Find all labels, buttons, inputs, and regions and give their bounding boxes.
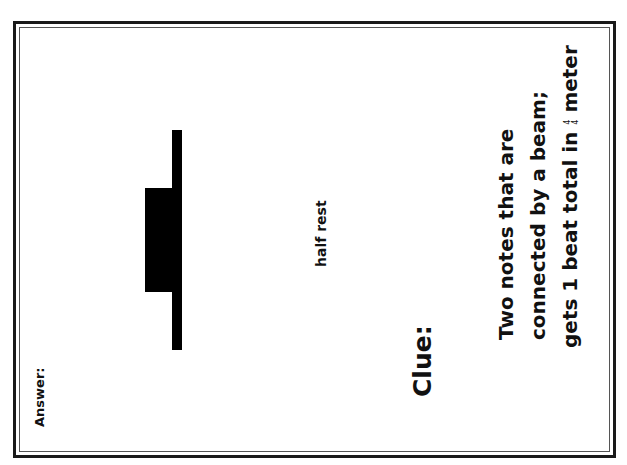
clue-label: Clue: — [408, 325, 437, 397]
clue-text: Two notes that are connected by a beam; … — [490, 45, 586, 348]
half-rest-block — [145, 188, 182, 292]
clue-line-1: Two notes that are — [490, 45, 522, 348]
time-signature: 44 — [564, 120, 580, 125]
clue-line-2: connected by a beam; — [522, 45, 554, 348]
clue-line-3: gets 1 beat total in 44 meter — [554, 45, 586, 348]
symbol-caption: half rest — [313, 200, 329, 267]
answer-label: Answer: — [32, 368, 47, 428]
clue-line-3-text: gets 1 beat total in — [558, 132, 582, 348]
time-sig-bottom: 4 — [571, 120, 580, 125]
clue-line-3-tail: meter — [558, 45, 582, 112]
